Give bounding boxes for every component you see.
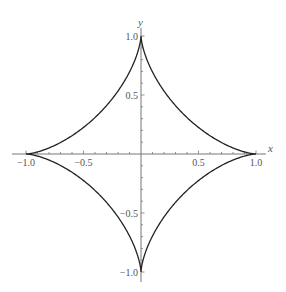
astroid-chart: −1.0−0.50.51.01.00.5−0.5−1.0 x y [0,0,286,292]
x-axis-label: x [267,142,273,154]
x-tick-label: 0.5 [192,157,205,168]
chart-container: −1.0−0.50.51.01.00.5−0.5−1.0 x y [0,0,286,292]
x-tick-label: 1.0 [250,157,263,168]
y-tick-label: 1.0 [126,31,139,42]
axes [12,28,266,282]
x-tick-label: −0.5 [74,157,92,168]
x-tick-label: −1.0 [17,157,35,168]
y-tick-label: 0.5 [126,90,139,101]
y-tick-label: −1.0 [120,267,138,278]
y-axis-label: y [137,16,143,28]
y-tick-label: −0.5 [120,208,138,219]
